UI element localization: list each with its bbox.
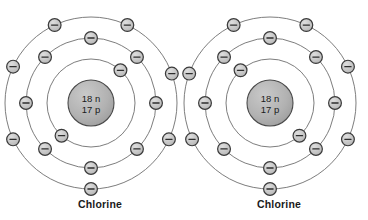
atom-label-chlorine-left: Chlorine (40, 198, 160, 210)
atom-left-outer-shell-electron (7, 60, 20, 73)
atom-right-middle-shell-electron (199, 97, 212, 110)
atom-right-inner-shell-electron (293, 129, 306, 142)
atom-left-outer-shell-electron (165, 67, 178, 80)
atom-left-outer-shell-electron (163, 133, 176, 146)
atom-right-nucleus-protons-label: 17 p (261, 104, 280, 115)
atom-left-outer-shell-electron (85, 183, 98, 196)
atom-left-middle-shell-electron (85, 32, 98, 45)
atom-left-middle-shell-electron (85, 162, 98, 175)
atom-right-outer-shell-electron (264, 183, 277, 196)
atom-right: 18 n17 p (183, 17, 356, 195)
atom-left-outer-shell-electron (7, 133, 20, 146)
atom-right-middle-shell-electron (310, 51, 323, 64)
atom-right-middle-shell-electron (264, 32, 277, 45)
atom-right-middle-shell-electron (218, 143, 231, 156)
atom-left: 18 n17 p (5, 17, 178, 195)
atom-right-outer-shell-electron (227, 19, 240, 32)
atom-right-middle-shell-electron (218, 51, 231, 64)
atom-right-outer-shell-electron (300, 19, 313, 32)
atom-left-middle-shell-electron (39, 51, 52, 64)
atom-diagram-canvas: 18 n17 p18 n17 p (0, 0, 368, 220)
atom-left-middle-shell-electron (39, 143, 52, 156)
atom-right-outer-shell-electron (183, 67, 196, 80)
atom-left-outer-shell-electron (121, 19, 134, 32)
atom-right-middle-shell-electron (310, 143, 323, 156)
atom-right-inner-shell-electron (234, 64, 247, 77)
atom-left-outer-shell-electron (48, 19, 61, 32)
atom-right-middle-shell-electron (264, 162, 277, 175)
atom-right-outer-shell-electron (342, 133, 355, 146)
atom-left-middle-shell-electron (131, 51, 144, 64)
atom-left-nucleus-protons-label: 17 p (82, 104, 101, 115)
atom-right-outer-shell-electron (342, 60, 355, 73)
atom-left-inner-shell-electron (55, 129, 68, 142)
atom-left-nucleus-neutrons-label: 18 n (82, 93, 101, 104)
atom-left-middle-shell-electron (20, 97, 33, 110)
atom-right-middle-shell-electron (329, 97, 342, 110)
atom-left-inner-shell-electron (114, 64, 127, 77)
atom-left-middle-shell-electron (131, 143, 144, 156)
chlorine-atoms-diagram: 18 n17 p18 n17 p Chlorine Chlorine (0, 0, 368, 220)
atom-right-nucleus-neutrons-label: 18 n (261, 93, 280, 104)
atom-left-middle-shell-electron (150, 97, 163, 110)
atom-right-outer-shell-electron (186, 133, 199, 146)
atom-label-chlorine-right: Chlorine (219, 198, 339, 210)
